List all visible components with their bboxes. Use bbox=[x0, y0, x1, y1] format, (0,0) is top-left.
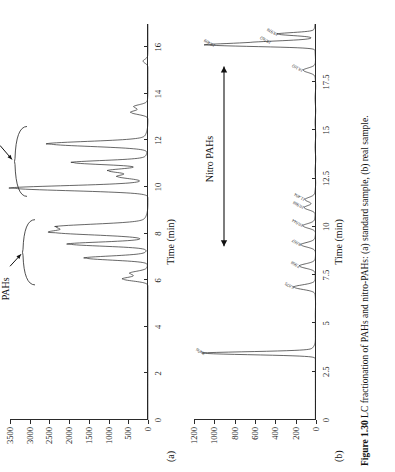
panel-b-nitro-pahs-annotation: Nitro PAHs bbox=[204, 136, 215, 183]
x-tick-label: 14 bbox=[153, 90, 163, 99]
panel-a-nitro-pahs-annotation: Nitro PAHs bbox=[0, 109, 1, 156]
y-tick bbox=[194, 420, 195, 424]
x-tick bbox=[312, 81, 316, 82]
figure-number: Figure 1.30 bbox=[360, 420, 370, 466]
panel-b: 02.557.51012.51517.502004006008001000120… bbox=[186, 18, 346, 466]
x-tick bbox=[144, 279, 148, 280]
x-tick bbox=[312, 129, 316, 130]
peak-label: 18.102 bbox=[291, 63, 304, 73]
figure-caption-text: LC fractionation of PAHs and nitro-PAHs:… bbox=[360, 115, 370, 417]
panel-a-x-axis-title: Time (min) bbox=[165, 219, 176, 264]
panel-b-plot-area: 02.557.51012.51517.502004006008001000120… bbox=[194, 24, 316, 420]
y-tick bbox=[30, 420, 31, 424]
x-tick-label: 10 bbox=[321, 223, 331, 232]
x-tick-label: 8 bbox=[153, 232, 163, 236]
x-tick-label: 2.5 bbox=[321, 366, 331, 377]
panel-a-pahs-annotation: PAHs bbox=[0, 277, 11, 300]
x-tick-label: 4 bbox=[153, 325, 163, 329]
peak-label: 3.456 bbox=[195, 347, 206, 356]
x-tick-label: 0 bbox=[153, 418, 163, 422]
y-tick bbox=[128, 420, 129, 424]
x-tick-label: 12 bbox=[153, 136, 163, 145]
y-tick-label: 600 bbox=[250, 427, 260, 458]
y-tick-label: 200 bbox=[291, 427, 301, 458]
y-tick-label: 1500 bbox=[84, 427, 94, 458]
x-tick bbox=[144, 326, 148, 327]
x-tick-label: 15 bbox=[321, 126, 331, 135]
figure-caption: Figure 1.30 LC fractionation of PAHs and… bbox=[360, 14, 370, 466]
y-tick bbox=[316, 420, 317, 424]
x-tick bbox=[312, 322, 316, 323]
y-tick bbox=[49, 420, 50, 424]
chromatogram-line bbox=[9, 24, 148, 420]
y-tick bbox=[255, 420, 256, 424]
y-tick-label: 0 bbox=[311, 427, 321, 458]
x-tick bbox=[312, 226, 316, 227]
panel-b-x-axis-title: Time (min) bbox=[333, 219, 344, 264]
y-tick-label: 3500 bbox=[5, 427, 15, 458]
x-tick bbox=[312, 178, 316, 179]
x-tick-label: 17.5 bbox=[321, 75, 331, 90]
y-tick bbox=[296, 420, 297, 424]
x-tick-label: 5 bbox=[321, 321, 331, 325]
y-tick bbox=[275, 420, 276, 424]
figure-page: 0246810121416050010001500200025003000350… bbox=[0, 0, 395, 472]
peak-label: 19.409 bbox=[203, 38, 216, 48]
peak-label: 19.562 bbox=[259, 35, 272, 45]
x-tick bbox=[144, 139, 148, 140]
y-tick-label: 1200 bbox=[189, 427, 199, 458]
y-tick bbox=[89, 420, 90, 424]
panel-b-x-axis bbox=[315, 24, 316, 420]
x-tick bbox=[312, 371, 316, 372]
x-tick bbox=[144, 233, 148, 234]
y-tick-label: 1000 bbox=[209, 427, 219, 458]
x-tick-label: 6 bbox=[153, 278, 163, 282]
x-tick-label: 7.5 bbox=[321, 270, 331, 281]
y-tick-label: 800 bbox=[230, 427, 240, 458]
y-tick bbox=[69, 420, 70, 424]
y-tick-label: 1000 bbox=[104, 427, 114, 458]
y-tick bbox=[235, 420, 236, 424]
y-tick bbox=[109, 420, 110, 424]
y-tick bbox=[10, 420, 11, 424]
y-tick-label: 0 bbox=[143, 427, 153, 458]
peak-label: 19.978 bbox=[266, 27, 279, 37]
panel-a-chromatogram-trace bbox=[10, 24, 148, 420]
panel-a-tag: (a) bbox=[165, 451, 176, 462]
y-tick bbox=[148, 420, 149, 424]
panel-b-tag: (b) bbox=[333, 450, 344, 462]
peak-label: 7.968 bbox=[290, 260, 301, 269]
y-tick bbox=[214, 420, 215, 424]
peak-label: 10.044 bbox=[291, 218, 304, 228]
x-tick bbox=[144, 372, 148, 373]
x-tick bbox=[144, 186, 148, 187]
panel-a-plot-area: 0246810121416050010001500200025003000350… bbox=[10, 24, 148, 420]
x-tick-label: 12.5 bbox=[321, 171, 331, 186]
x-tick-label: 16 bbox=[153, 43, 163, 52]
panel-a: 0246810121416050010001500200025003000350… bbox=[2, 18, 178, 466]
x-tick-label: 2 bbox=[153, 371, 163, 375]
x-tick-label: 10 bbox=[153, 183, 163, 192]
y-tick-label: 2000 bbox=[64, 427, 74, 458]
x-tick bbox=[144, 46, 148, 47]
panel-a-x-axis bbox=[147, 24, 148, 420]
peak-label: 6.875 bbox=[284, 281, 295, 290]
peak-label: 9.067 bbox=[291, 238, 302, 247]
x-tick-label: 0 bbox=[321, 418, 331, 422]
y-tick-label: 2500 bbox=[44, 427, 54, 458]
y-tick-label: 3000 bbox=[25, 427, 35, 458]
x-tick bbox=[312, 274, 316, 275]
x-tick bbox=[144, 93, 148, 94]
y-tick-label: 500 bbox=[123, 427, 133, 458]
y-tick-label: 400 bbox=[270, 427, 280, 458]
